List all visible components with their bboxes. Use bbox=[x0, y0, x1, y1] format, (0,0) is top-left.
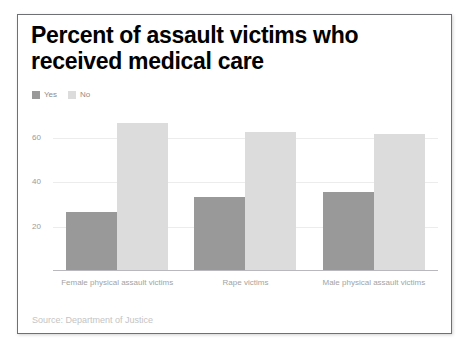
bar-no bbox=[117, 123, 168, 270]
legend-swatch-icon bbox=[68, 91, 76, 99]
x-axis-labels: Female physical assault victimsRape vict… bbox=[53, 277, 438, 288]
legend-label-no: No bbox=[80, 91, 90, 99]
chart-legend: Yes No bbox=[32, 91, 90, 99]
bar-yes bbox=[66, 212, 117, 270]
bar-group bbox=[53, 111, 181, 270]
chart-title: Percent of assault victims who received … bbox=[31, 22, 431, 74]
y-axis-tick-label: 60 bbox=[32, 134, 50, 142]
chart-card: Percent of assault victims who received … bbox=[17, 14, 452, 334]
plot-area: 204060 bbox=[32, 111, 438, 271]
bar-series-container bbox=[53, 111, 438, 270]
bar-no bbox=[374, 134, 425, 270]
x-axis-line bbox=[53, 270, 438, 271]
legend-swatch-icon bbox=[32, 91, 40, 99]
bar-no bbox=[245, 132, 296, 270]
y-axis-tick-label: 20 bbox=[32, 223, 50, 231]
bar-yes bbox=[194, 197, 245, 270]
chart-title-line-2: received medical care bbox=[31, 48, 431, 74]
bar-group bbox=[181, 111, 309, 270]
source-note: Source: Department of Justice bbox=[32, 315, 153, 326]
x-axis-category-label: Rape victims bbox=[181, 277, 309, 288]
legend-item-yes: Yes bbox=[32, 91, 57, 99]
chart-title-line-1: Percent of assault victims who bbox=[31, 22, 431, 48]
legend-item-no: No bbox=[68, 91, 90, 99]
legend-label-yes: Yes bbox=[44, 91, 57, 99]
bar-group bbox=[310, 111, 438, 270]
x-axis-category-label: Male physical assault victims bbox=[310, 277, 438, 288]
x-axis-category-label: Female physical assault victims bbox=[53, 277, 181, 288]
bar-yes bbox=[323, 192, 374, 270]
y-axis-tick-label: 40 bbox=[32, 178, 50, 186]
